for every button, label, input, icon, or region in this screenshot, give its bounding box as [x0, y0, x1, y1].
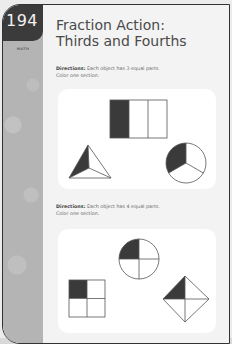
- instruction-text: Color one section.: [56, 73, 99, 78]
- directions-label: Directions:: [56, 204, 86, 209]
- page-title: Fraction Action: Thirds and Fourths: [56, 17, 187, 49]
- square-fourths[interactable]: [69, 280, 105, 317]
- shapes-card-fourths: [58, 229, 216, 333]
- shapes-card-thirds: [58, 89, 216, 189]
- thirds-shapes: [58, 89, 216, 189]
- directions-fourths: Directions: Each object has 4 equal part…: [56, 204, 160, 217]
- directions-thirds: Directions: Each object has 3 equal part…: [56, 66, 160, 79]
- directions-text: Each object has 4 equal parts.: [86, 204, 160, 209]
- triangle-thirds[interactable]: [69, 145, 111, 178]
- sidebar: 194 MATH: [3, 5, 43, 343]
- fourths-shapes: [58, 229, 216, 333]
- content-area: Fraction Action: Thirds and Fourths Dire…: [43, 5, 229, 343]
- page-number-block: 194: [3, 5, 43, 41]
- circle-thirds[interactable]: [166, 143, 206, 183]
- subject-label: MATH: [3, 47, 43, 51]
- directions-label: Directions:: [56, 66, 86, 71]
- instruction-text: Color one section.: [56, 211, 99, 216]
- rectangle-thirds[interactable]: [110, 100, 167, 138]
- title-line-2: Thirds and Fourths: [56, 33, 187, 49]
- page-number: 194: [3, 11, 41, 30]
- diamond-fourths[interactable]: [163, 276, 209, 322]
- circle-fourths[interactable]: [119, 239, 159, 279]
- page-frame: 194 MATH Fraction Action: Thirds and Fou…: [2, 4, 230, 344]
- title-line-1: Fraction Action:: [56, 17, 165, 33]
- directions-text: Each object has 3 equal parts.: [86, 66, 160, 71]
